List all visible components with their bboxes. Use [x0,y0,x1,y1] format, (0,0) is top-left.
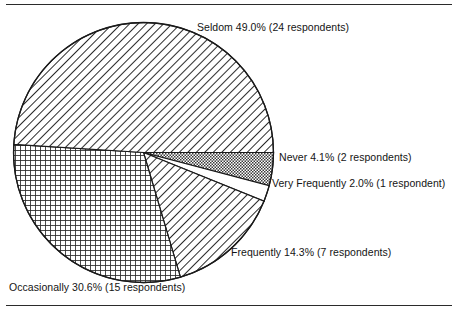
pie-slice-label-very-frequently: Very Frequently 2.0% (1 respondent) [272,177,445,189]
pie-slice-label-occasionally: Occasionally 30.6% (15 respondents) [9,281,185,293]
pie-chart-figure: Seldom 49.0% (24 respondents) Never 4.1%… [0,0,458,312]
pie-slice-label-never: Never 4.1% (2 respondents) [279,151,412,163]
pie-slice-seldom[interactable] [14,23,274,153]
bottom-rule-divider [6,305,452,306]
pie-slice-label-seldom: Seldom 49.0% (24 respondents) [197,21,349,33]
pie-slices-group [14,23,274,283]
pie-slice-label-frequently: Frequently 14.3% (7 respondents) [231,246,391,258]
